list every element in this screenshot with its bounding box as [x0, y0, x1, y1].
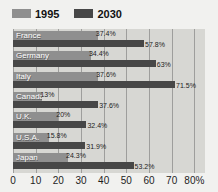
x-tick-label-20: 20	[53, 175, 64, 186]
x-tick-label-30: 30	[75, 175, 86, 186]
bar-1995-usa: U.S.A.	[13, 133, 49, 142]
bar-1995-japan: Japan	[13, 153, 68, 162]
bar-1995-uk: U.K.	[13, 112, 58, 121]
gridline-80	[194, 29, 195, 173]
value-label-1995-japan: 24.3%	[66, 152, 86, 159]
gridline-70	[172, 29, 173, 173]
x-tick-label-40: 40	[98, 175, 109, 186]
category-label-usa: U.S.A.	[13, 133, 49, 142]
value-label-1995-italy: 37.6%	[96, 71, 116, 78]
legend-label: 1995	[35, 8, 59, 20]
bar-2030-usa	[13, 142, 85, 149]
x-tick-label-50: 50	[121, 175, 132, 186]
value-label-2030-italy: 71.5%	[176, 82, 196, 89]
x-tick-label-10: 10	[30, 175, 41, 186]
gridline-60	[149, 29, 150, 173]
value-label-2030-canada: 37.6%	[99, 102, 119, 109]
value-label-1995-usa: 15.8%	[47, 132, 67, 139]
bar-2030-france	[13, 40, 144, 47]
bar-2030-japan	[13, 162, 134, 169]
category-label-italy: Italy	[13, 72, 98, 81]
legend-item-1995: 1995	[12, 8, 59, 20]
category-label-france: France	[13, 31, 98, 40]
bar-2030-canada	[13, 101, 98, 108]
legend-swatch-2030	[74, 9, 93, 18]
value-label-1995-canada: 13%	[40, 91, 54, 98]
x-tick-label-70: 70	[166, 175, 177, 186]
value-label-1995-france: 37.4%	[96, 30, 116, 37]
value-label-2030-japan: 53.2%	[135, 163, 155, 170]
value-label-1995-uk: 20%	[56, 111, 70, 118]
x-axis: 01020304050607080%	[13, 175, 205, 188]
bar-1995-italy: Italy	[13, 72, 98, 81]
legend-item-2030: 2030	[74, 8, 121, 20]
bar-2030-italy	[13, 81, 175, 88]
value-label-1995-germany: 34.4%	[89, 50, 109, 57]
category-label-canada: Canada	[13, 92, 42, 101]
legend: 19952030	[12, 7, 122, 20]
x-tick-label-60: 60	[143, 175, 154, 186]
value-label-2030-uk: 32.4%	[87, 122, 107, 129]
x-tick-label-80: 80%	[184, 175, 204, 186]
legend-label: 2030	[97, 8, 121, 20]
bar-1995-france: France	[13, 31, 98, 40]
bar-1995-germany: Germany	[13, 51, 91, 60]
value-label-2030-germany: 63%	[157, 61, 171, 68]
x-tick-label-0: 0	[10, 175, 16, 186]
bar-1995-canada: Canada	[13, 92, 42, 101]
plot-area: France37.4%57.8%Germany34.4%63%Italy37.6…	[13, 29, 205, 173]
gridline-50	[126, 29, 127, 173]
category-label-japan: Japan	[13, 153, 68, 162]
value-label-2030-usa: 31.9%	[86, 143, 106, 150]
value-label-2030-france: 57.8%	[145, 41, 165, 48]
bar-2030-germany	[13, 60, 156, 67]
category-label-uk: U.K.	[13, 112, 58, 121]
category-label-germany: Germany	[13, 51, 91, 60]
chart: 19952030 France37.4%57.8%Germany34.4%63%…	[0, 0, 218, 192]
bar-2030-uk	[13, 121, 86, 128]
legend-swatch-1995	[12, 9, 31, 18]
